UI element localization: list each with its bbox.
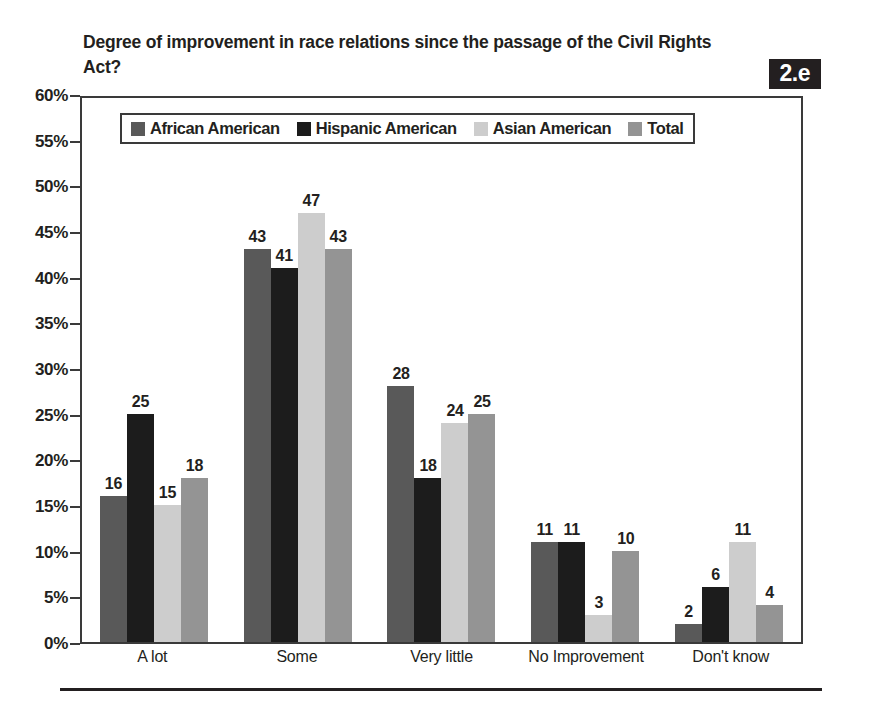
bar[interactable] [414, 478, 441, 642]
bar-group-bars: 16251518 [82, 98, 226, 642]
bar[interactable] [244, 249, 271, 642]
x-axis-category-label: No Improvement [514, 648, 659, 666]
bar[interactable] [468, 414, 495, 642]
bar-column[interactable]: 11 [558, 98, 585, 642]
bar-group: 1111310 [513, 98, 657, 642]
y-axis-tick-label: 60% [35, 86, 68, 106]
bar-column[interactable]: 3 [585, 98, 612, 642]
x-axis-category-label: Very little [369, 648, 514, 666]
bar[interactable] [441, 423, 468, 642]
y-axis-tick-mark [70, 369, 80, 371]
bar-column[interactable]: 6 [702, 98, 729, 642]
bar-column[interactable]: 24 [441, 98, 468, 642]
plot-area: 162515184341474328182425111131026114 [82, 98, 801, 642]
bar[interactable] [612, 551, 639, 642]
bar-value-label: 18 [419, 457, 436, 475]
legend-item-label: Hispanic American [316, 119, 457, 138]
y-axis-tick-mark [70, 278, 80, 280]
y-axis-tick-mark [70, 506, 80, 508]
y-axis-tick-mark [70, 141, 80, 143]
y-axis-tick-label: 35% [35, 314, 68, 334]
bar-value-label: 11 [564, 521, 580, 539]
bar-column[interactable]: 43 [244, 98, 271, 642]
legend-item[interactable]: African American [131, 119, 280, 138]
y-axis-tick-mark [70, 597, 80, 599]
legend-item[interactable]: Hispanic American [297, 119, 457, 138]
y-axis-tick-label: 5% [44, 588, 68, 608]
bar[interactable] [675, 624, 702, 642]
y-axis-tick-mark [70, 552, 80, 554]
bar-column[interactable]: 2 [675, 98, 702, 642]
bar-value-label: 47 [303, 192, 320, 210]
bar-groups: 162515184341474328182425111131026114 [82, 98, 801, 642]
bar[interactable] [558, 542, 585, 642]
status-badge: 2.e [769, 59, 821, 89]
bar-column[interactable]: 15 [154, 98, 181, 642]
bar[interactable] [271, 268, 298, 642]
y-axis-tick-mark [70, 186, 80, 188]
bar-column[interactable]: 25 [127, 98, 154, 642]
bar-value-label: 24 [446, 402, 463, 420]
bar-value-label: 43 [330, 228, 347, 246]
bar-column[interactable]: 18 [181, 98, 208, 642]
bar-value-label: 2 [684, 603, 693, 621]
bar-value-label: 10 [617, 530, 634, 548]
bar-column[interactable]: 28 [387, 98, 414, 642]
bar-column[interactable]: 16 [100, 98, 127, 642]
bar-value-label: 18 [186, 457, 203, 475]
bar[interactable] [729, 542, 756, 642]
y-axis-tick-label: 55% [35, 132, 68, 152]
y-axis-tick-label: 20% [35, 451, 68, 471]
bar-value-label: 11 [537, 521, 553, 539]
bar-value-label: 41 [276, 247, 293, 265]
bar[interactable] [756, 605, 783, 642]
bar-value-label: 15 [159, 484, 176, 502]
bar[interactable] [100, 496, 127, 642]
chart-legend: African AmericanHispanic AmericanAsian A… [120, 113, 695, 144]
legend-item-label: Total [647, 119, 683, 138]
legend-item[interactable]: Total [628, 119, 683, 138]
legend-item[interactable]: Asian American [474, 119, 612, 138]
bar-group: 43414743 [226, 98, 370, 642]
bar-column[interactable]: 25 [468, 98, 495, 642]
bar[interactable] [585, 615, 612, 642]
bar-column[interactable]: 18 [414, 98, 441, 642]
bar-value-label: 3 [594, 594, 603, 612]
bar-value-label: 25 [132, 393, 149, 411]
chart-card: Degree of improvement in race relations … [0, 0, 869, 715]
bar[interactable] [702, 587, 729, 642]
legend-swatch-icon [131, 122, 145, 136]
footer-divider [60, 688, 822, 691]
y-axis-tick-mark [70, 232, 80, 234]
bar-column[interactable]: 10 [612, 98, 639, 642]
bar-group: 28182425 [370, 98, 514, 642]
x-axis: A lotSomeVery littleNo ImprovementDon't … [80, 648, 803, 666]
bar-group-bars: 1111310 [513, 98, 657, 642]
y-axis-tick-label: 40% [35, 269, 68, 289]
bar[interactable] [387, 386, 414, 642]
bar-group-bars: 43414743 [226, 98, 370, 642]
bar-column[interactable]: 41 [271, 98, 298, 642]
bar-column[interactable]: 11 [729, 98, 756, 642]
bar[interactable] [127, 414, 154, 642]
bar[interactable] [154, 505, 181, 642]
y-axis-tick-label: 25% [35, 406, 68, 426]
legend-swatch-icon [474, 122, 488, 136]
bar-value-label: 43 [249, 228, 266, 246]
bar[interactable] [181, 478, 208, 642]
bar-group: 26114 [657, 98, 801, 642]
bar[interactable] [298, 213, 325, 642]
bar-column[interactable]: 11 [531, 98, 558, 642]
bar-group-bars: 28182425 [370, 98, 514, 642]
legend-item-label: Asian American [493, 119, 612, 138]
bar[interactable] [531, 542, 558, 642]
bar-column[interactable]: 43 [325, 98, 352, 642]
y-axis: 0%5%10%15%20%25%30%35%40%45%50%55%60% [0, 96, 80, 644]
bar-value-label: 11 [734, 521, 750, 539]
bar-value-label: 6 [711, 566, 720, 584]
bar[interactable] [325, 249, 352, 642]
y-axis-tick-label: 30% [35, 360, 68, 380]
bar-column[interactable]: 47 [298, 98, 325, 642]
y-axis-tick-mark [70, 95, 80, 97]
bar-column[interactable]: 4 [756, 98, 783, 642]
